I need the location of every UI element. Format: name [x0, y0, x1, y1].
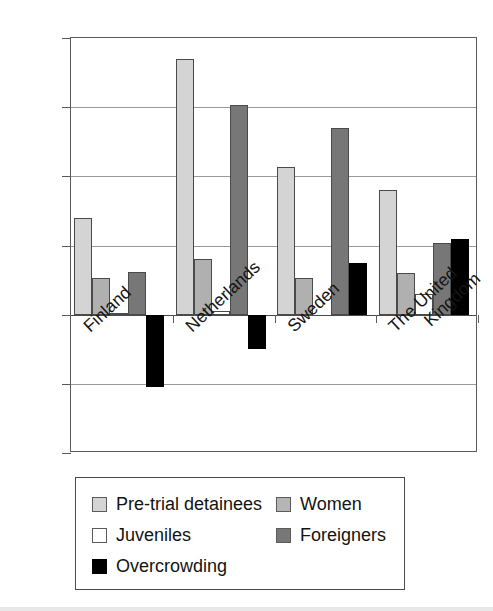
legend-label-juveniles: Juveniles	[116, 525, 191, 546]
x-tick-1	[275, 315, 276, 323]
chart-legend: Pre-trial detaineesJuvenilesOvercrowding…	[75, 477, 405, 590]
legend-swatch-women-icon	[276, 497, 291, 512]
plot-area	[70, 37, 477, 452]
legend-label-pretrial: Pre-trial detainees	[116, 494, 262, 515]
legend-item-women[interactable]: Women	[276, 489, 386, 520]
y-tick-mark-20	[62, 176, 71, 177]
y-tick-mark-10	[62, 246, 71, 247]
x-tick-3	[478, 315, 479, 323]
legend-column-left: Pre-trial detaineesJuvenilesOvercrowding	[92, 489, 262, 582]
x-tick-2	[376, 315, 377, 323]
x-tick-0	[173, 315, 174, 323]
x-axis-ticks	[71, 38, 476, 451]
legend-item-overcrowding[interactable]: Overcrowding	[92, 551, 262, 582]
y-tick-mark--20	[62, 453, 71, 454]
legend-swatch-pretrial-icon	[92, 497, 107, 512]
y-tick-mark-0	[62, 315, 71, 316]
legend-swatch-overcrowding-icon	[92, 559, 107, 574]
legend-item-pretrial[interactable]: Pre-trial detainees	[92, 489, 262, 520]
page-edge	[0, 607, 493, 611]
legend-label-overcrowding: Overcrowding	[116, 556, 227, 577]
legend-swatch-juveniles-icon	[92, 528, 107, 543]
bar-chart: 403020100−10−20 FinlandNetherlandsSweden…	[0, 0, 493, 611]
legend-column-right: WomenForeigners	[276, 489, 386, 551]
y-tick-mark--10	[62, 384, 71, 385]
y-tick-mark-30	[62, 107, 71, 108]
y-tick-mark-40	[62, 38, 71, 39]
legend-item-foreigners[interactable]: Foreigners	[276, 520, 386, 551]
legend-swatch-foreigners-icon	[276, 528, 291, 543]
legend-label-women: Women	[300, 494, 362, 515]
legend-label-foreigners: Foreigners	[300, 525, 386, 546]
legend-item-juveniles[interactable]: Juveniles	[92, 520, 262, 551]
